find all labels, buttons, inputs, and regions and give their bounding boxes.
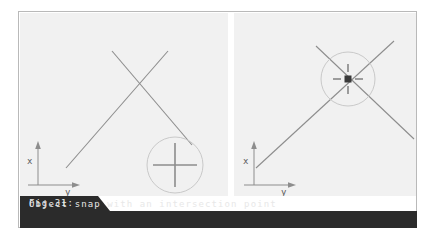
axis-label-y: y — [281, 187, 287, 196]
right-panel-canvas: x y — [234, 13, 416, 196]
axis-label-x: x — [27, 156, 33, 166]
intersection-snap-marker-icon — [333, 64, 363, 94]
figure-caption-bar — [20, 211, 417, 228]
drawing-line-b — [112, 51, 192, 145]
drawing-panel-left[interactable]: x y — [20, 13, 228, 196]
drawing-line-b — [316, 46, 414, 139]
drawing-line-a — [66, 51, 168, 168]
ucs-axis-indicator — [244, 141, 296, 188]
axis-label-y: y — [65, 187, 71, 196]
drawing-line-a — [256, 41, 394, 168]
figure-frame: x y — [18, 11, 417, 228]
ucs-axis-indicator — [28, 141, 80, 188]
figure-container: x y — [0, 0, 435, 238]
left-panel-canvas: x y — [20, 13, 228, 196]
figure-caption: Fig.31: Object snap with an intersection… — [20, 196, 417, 228]
drawing-panel-right[interactable]: x y — [234, 13, 416, 196]
axis-label-x: x — [243, 156, 249, 166]
crosshair-cursor-icon — [153, 143, 197, 187]
figure-caption-text: Object snap with an intersection point — [29, 198, 277, 211]
